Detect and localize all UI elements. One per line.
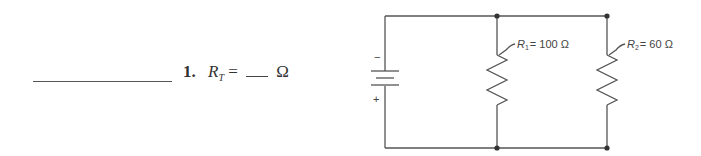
junction-dot	[604, 145, 609, 150]
junction-dot	[494, 145, 499, 150]
r2-leader-line	[609, 44, 625, 55]
parallel-circuit-diagram: − + R1= 100 Ω R2= 60 Ω	[0, 0, 701, 156]
battery-icon	[371, 71, 399, 85]
r1-leader-line	[499, 44, 515, 55]
r1-label: R1= 100 Ω	[517, 38, 569, 51]
battery-negative-label: −	[374, 51, 380, 63]
resistor-r1	[487, 16, 507, 148]
r2-label: R2= 60 Ω	[627, 38, 673, 51]
junction-dot	[494, 13, 499, 18]
junction-dot	[604, 13, 609, 18]
battery-positive-label: +	[373, 93, 379, 105]
resistor-r2	[597, 16, 617, 148]
